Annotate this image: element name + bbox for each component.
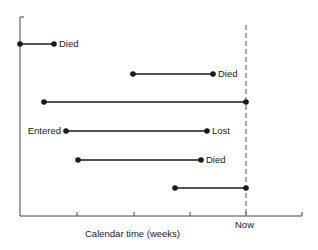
subject-start-dot-5	[75, 157, 81, 163]
x-axis-label: Calendar time (weeks)	[85, 228, 180, 239]
subject-start-label-4: Entered	[28, 125, 61, 136]
subject-start-dot-4	[63, 128, 69, 134]
subject-end-label-1: Died	[59, 38, 79, 49]
subject-end-dot-4	[204, 128, 210, 134]
subject-start-dot-6	[172, 185, 178, 191]
subject-end-dot-2	[210, 71, 216, 77]
subject-end-dot-6	[243, 185, 249, 191]
subject-start-dot-1	[17, 41, 23, 47]
subject-start-dot-3	[41, 99, 47, 105]
now-label: Now	[235, 219, 254, 230]
subject-end-label-4: Lost	[212, 125, 230, 136]
subject-end-dot-3	[243, 99, 249, 105]
subject-end-dot-1	[51, 41, 57, 47]
subject-end-label-5: Died	[206, 154, 226, 165]
subject-start-dot-2	[130, 71, 136, 77]
subject-end-label-2: Died	[218, 68, 238, 79]
subject-end-dot-5	[198, 157, 204, 163]
